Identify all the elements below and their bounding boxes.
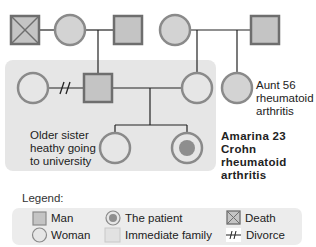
legend-title: Legend: [22, 192, 64, 204]
aunt-label-line: arthritis [256, 105, 314, 118]
father[interactable] [84, 74, 112, 102]
legend-label-patient: The patient [125, 212, 183, 225]
aunt[interactable] [222, 73, 252, 103]
patient-label-line: Crohn [221, 143, 287, 156]
legend-divorce-icon [226, 228, 241, 242]
sister-label-line: to university [30, 155, 96, 168]
older-sister-label: Older sister heathy going to university [30, 129, 96, 168]
sister-label-line: heathy going [30, 142, 96, 155]
patient[interactable] [172, 133, 202, 163]
legend-patient-icon [106, 211, 120, 225]
maternal-grandfather[interactable] [251, 16, 279, 44]
legend-label-divorce: Divorce [246, 229, 285, 242]
maternal-grandmother[interactable] [160, 15, 190, 45]
fathers-ex-partner[interactable] [18, 73, 48, 103]
legend-label-woman: Woman [51, 229, 90, 242]
legend-man-icon [33, 212, 46, 225]
sister-label-line: Older sister [30, 129, 96, 142]
aunt-label-line: Aunt 56 [256, 79, 314, 92]
patient-label-line: arthritis [221, 169, 287, 182]
paternal-step-grandfather[interactable] [114, 16, 142, 44]
legend-label-family: Immediate family [125, 229, 212, 242]
patient-label-line: Amarina 23 [221, 130, 287, 143]
paternal-grandfather[interactable] [11, 16, 39, 44]
legend-label-death: Death [245, 212, 276, 225]
older-sister[interactable] [100, 133, 130, 163]
genogram-diagram [0, 0, 316, 247]
legend-death-icon [227, 211, 240, 224]
mother[interactable] [182, 73, 212, 103]
aunt-label: Aunt 56 rheumatoid arthritis [256, 79, 314, 118]
paternal-grandmother[interactable] [55, 15, 85, 45]
aunt-label-line: rheumatoid [256, 92, 314, 105]
legend-woman-icon [33, 228, 47, 242]
patient-label-line: rheumatoid [221, 156, 287, 169]
legend-family-icon [105, 228, 120, 242]
patient-label: Amarina 23 Crohn rheumatoid arthritis [221, 130, 287, 182]
legend-label-man: Man [51, 212, 73, 225]
